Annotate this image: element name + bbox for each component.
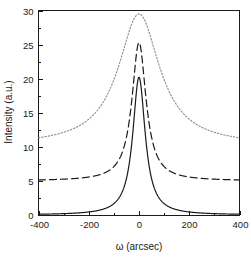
x-axis-title: ω (arcsec)	[116, 241, 163, 252]
curve-solid	[39, 77, 240, 214]
data-curves	[39, 14, 240, 214]
x-tick-label-0: 0	[137, 219, 142, 230]
y-axis-title: Intensity (a.u.)	[3, 80, 14, 143]
y-axis-ticks	[39, 12, 43, 216]
y-tick-label-20: 20	[23, 74, 34, 85]
y-tick-label-10: 10	[23, 142, 34, 153]
plot-frame	[39, 11, 240, 216]
x-axis-tick-labels: -400-2000200400	[30, 219, 248, 230]
chart-figure: -400-2000200400 051015202530 ω (arcsec) …	[0, 0, 251, 260]
curve-dashed	[39, 43, 240, 180]
y-tick-label-25: 25	[23, 40, 34, 51]
x-tick-label-200: 200	[182, 219, 198, 230]
y-tick-label-15: 15	[23, 108, 34, 119]
y-axis-tick-labels: 051015202530	[23, 6, 34, 221]
y-tick-label-30: 30	[23, 6, 34, 17]
x-tick-label--200: -200	[80, 219, 99, 230]
curve-dotted	[39, 14, 240, 138]
y-tick-label-5: 5	[28, 176, 33, 187]
y-tick-label-0: 0	[28, 210, 33, 221]
x-tick-label-400: 400	[233, 219, 249, 230]
intensity-vs-omega-chart: -400-2000200400 051015202530 ω (arcsec) …	[0, 0, 251, 260]
